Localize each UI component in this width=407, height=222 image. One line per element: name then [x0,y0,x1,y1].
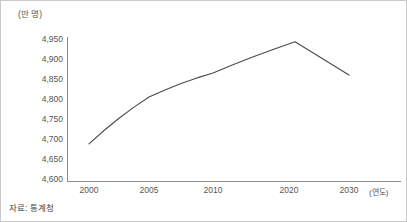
x-tick-label: 2000 [67,185,111,195]
x-tick-label: 2020 [267,185,311,195]
y-tick-label: 4,600 [27,174,63,184]
y-tick-label: 4,800 [27,94,63,104]
x-tick-label: 2030 [327,185,371,195]
y-tick-label: 4,850 [27,74,63,84]
plot-area: 4,9504,9004,8504,8004,7504,7004,6504,600… [1,1,407,222]
y-tick-label: 4,950 [27,34,63,44]
y-tick-label: 4,900 [27,54,63,64]
y-tick-label: 4,750 [27,114,63,124]
x-tick-label: 2010 [191,185,235,195]
x-axis-unit-label: (연도) [369,186,388,197]
population-line-series [89,42,349,144]
y-tick-label: 4,700 [27,134,63,144]
y-tick-label: 4,650 [27,154,63,164]
x-tick-label: 2005 [127,185,171,195]
chart-figure: (만 명) 4,9504,9004,8504,8004,7504,7004,65… [0,0,407,222]
source-note: 자료: 통계청 [9,201,54,213]
